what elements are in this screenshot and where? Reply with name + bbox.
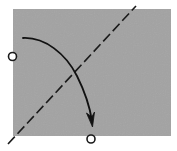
fold-diagram (0, 0, 177, 151)
reference-point-bottom-edge (87, 135, 95, 143)
reference-point-left-edge (9, 53, 17, 61)
